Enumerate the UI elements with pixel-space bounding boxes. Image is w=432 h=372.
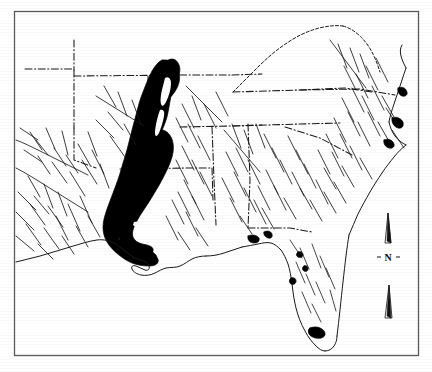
map-figure: N [0, 0, 432, 372]
map-canvas: N [0, 0, 432, 372]
north-arrow-label: N [384, 252, 392, 263]
map-background [0, 0, 432, 372]
